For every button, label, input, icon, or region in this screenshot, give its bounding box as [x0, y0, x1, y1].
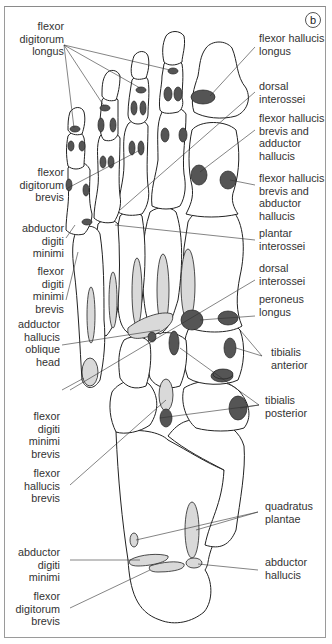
label-flexor-digitorum-brevis-1: flexor digitorum brevis: [20, 166, 64, 204]
label-flexor-hallucis-brevis-adductor-hallucis: flexor hallucis brevis and adductor hall…: [259, 112, 324, 162]
label-flexor-digitorum-longus: flexor digitorum longus: [20, 20, 64, 58]
label-abductor-hallucis: abductor hallucis: [265, 556, 307, 581]
proximal-phalanx-3-bone: [118, 120, 149, 216]
label-tibialis-posterior: tibialis posterior: [265, 394, 307, 419]
label-dorsal-interossei-2: dorsal interossei: [259, 262, 305, 287]
interosseous-region-3: [132, 258, 142, 326]
label-adductor-hallucis-oblique-head: adductor hallucis oblique head: [18, 318, 60, 368]
distal-phalanx-2-bone: [163, 32, 185, 66]
label-peroneus-longus: peroneus longus: [259, 293, 304, 318]
interosseous-region-2: [109, 272, 117, 328]
fhb-insertion: [159, 379, 173, 411]
proximal-phalanx-2-bone: [152, 108, 186, 209]
label-flexor-digiti-minimi-brevis-2: flexor digiti minimi brevis: [29, 410, 60, 460]
middle-phalanx-2-bone: [159, 60, 182, 114]
label-quadratus-plantae: quadratus plantae: [265, 500, 313, 525]
interosseous-region-1: [87, 287, 95, 343]
label-plantar-interossei: plantar interossei: [259, 227, 305, 252]
label-tibialis-anterior: tibialis anterior: [271, 346, 308, 371]
middle-phalanx-4-bone: [100, 96, 118, 141]
distal-phalanx-1-bone: [192, 42, 248, 118]
label-flexor-hallucis-longus: flexor hallucis longus: [259, 32, 324, 57]
proximal-phalanx-4-bone: [94, 132, 121, 223]
fdmb-insertion: [82, 358, 98, 386]
lateral-cuneiform-bone: [119, 337, 151, 388]
label-flexor-digiti-minimi-brevis-1: flexor digiti minimi brevis: [33, 265, 64, 315]
distal-phalanx-3-bone: [131, 52, 149, 80]
label-dorsal-interossei-1: dorsal interossei: [259, 80, 305, 105]
label-flexor-digitorum-brevis-2: flexor digitorum brevis: [16, 590, 60, 628]
abductor-hallucis-insertion: [186, 558, 202, 568]
label-flexor-hallucis-brevis: flexor hallucis brevis: [24, 467, 60, 505]
label-flexor-hallucis-brevis-abductor-hallucis: flexor hallucis brevis and abductor hall…: [259, 172, 324, 222]
label-abductor-digiti-minimi-1: abductor digiti minimi: [22, 222, 64, 260]
label-abductor-digiti-minimi-2: abductor digiti minimi: [18, 546, 60, 584]
